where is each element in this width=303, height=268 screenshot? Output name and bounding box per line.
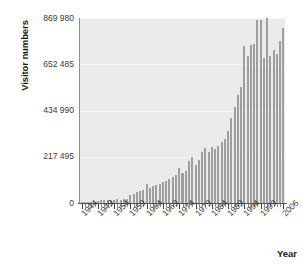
x-tick-label: 1959	[127, 198, 147, 218]
x-tick-label: 1979	[193, 198, 213, 218]
x-axis-tick-labels: 1944194919541959196419691974197919841989…	[0, 0, 303, 268]
x-tick-label: 1964	[144, 198, 164, 218]
visitor-numbers-bar-chart: Visitor numbers 0217 495434 990652 48586…	[0, 0, 303, 268]
x-tick-label: 1999	[258, 198, 278, 218]
x-tick-label: 1984	[209, 198, 229, 218]
x-tick-label: 2006	[280, 198, 300, 218]
x-tick-label: 1944	[79, 198, 99, 218]
x-tick-label: 1974	[176, 198, 196, 218]
x-tick-label: 1994	[241, 198, 261, 218]
x-axis-title: Year	[277, 248, 297, 259]
